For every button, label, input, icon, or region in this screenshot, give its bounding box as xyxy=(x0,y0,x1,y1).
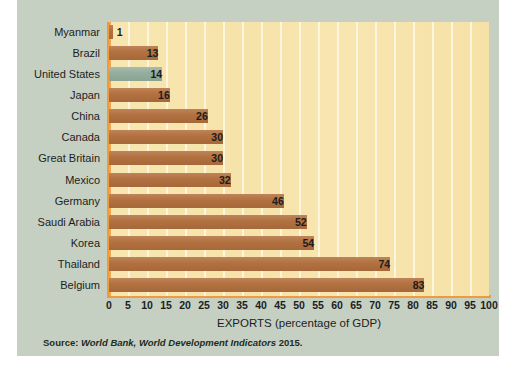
category-label-korea: Korea xyxy=(21,233,107,254)
bar-value-label: 30 xyxy=(109,151,227,165)
bar-value-label: 54 xyxy=(109,236,318,250)
x-tick-5: 5 xyxy=(125,299,131,311)
plot-area: 1131416263030324652547483 xyxy=(109,22,489,296)
bar-value-label: 1 xyxy=(113,25,123,39)
x-tick-20: 20 xyxy=(179,299,191,311)
bar-value-label: 16 xyxy=(109,88,174,102)
x-tick-10: 10 xyxy=(141,299,153,311)
bar-value-label: 32 xyxy=(109,173,235,187)
bar-value-label: 30 xyxy=(109,130,227,144)
category-label-belgium: Belgium xyxy=(21,275,107,296)
bar-value-label: 13 xyxy=(109,46,162,60)
source-year: 2015. xyxy=(279,337,303,348)
category-axis-labels: MyanmarBrazilUnited StatesJapanChinaCana… xyxy=(17,22,107,296)
x-tick-15: 15 xyxy=(160,299,172,311)
bar-row: 26 xyxy=(109,106,489,127)
bar-row: 32 xyxy=(109,170,489,191)
bar-row: 13 xyxy=(109,43,489,64)
category-label-japan: Japan xyxy=(21,85,107,106)
category-label-brazil: Brazil xyxy=(21,43,107,64)
category-label-great-britain: Great Britain xyxy=(21,148,107,169)
bar-row: 16 xyxy=(109,85,489,106)
bar-value-label: 46 xyxy=(109,194,288,208)
x-tick-75: 75 xyxy=(388,299,400,311)
bar-value-label: 83 xyxy=(109,278,428,292)
bar-row: 30 xyxy=(109,148,489,169)
source-note: Source: World Bank, World Development In… xyxy=(43,337,302,348)
x-tick-80: 80 xyxy=(407,299,419,311)
category-label-canada: Canada xyxy=(21,127,107,148)
category-label-china: China xyxy=(21,106,107,127)
figure-panel: 1131416263030324652547483 MyanmarBrazilU… xyxy=(17,0,499,356)
x-axis-title: EXPORTS (percentage of GDP) xyxy=(109,317,489,329)
bar-row: 1 xyxy=(109,22,489,43)
x-tick-35: 35 xyxy=(236,299,248,311)
x-tick-50: 50 xyxy=(293,299,305,311)
x-tick-70: 70 xyxy=(369,299,381,311)
x-tick-100: 100 xyxy=(480,299,498,311)
x-tick-55: 55 xyxy=(312,299,324,311)
x-tick-0: 0 xyxy=(106,299,112,311)
bar-value-label: 26 xyxy=(109,109,212,123)
x-tick-30: 30 xyxy=(217,299,229,311)
x-tick-65: 65 xyxy=(350,299,362,311)
bar-row: 74 xyxy=(109,254,489,275)
category-label-thailand: Thailand xyxy=(21,254,107,275)
source-publication: World Development Indicators xyxy=(139,337,276,348)
bar-row: 14 xyxy=(109,64,489,85)
source-publisher: World Bank, xyxy=(81,337,136,348)
bar-row: 52 xyxy=(109,212,489,233)
bar-value-label: 14 xyxy=(109,67,166,81)
category-label-germany: Germany xyxy=(21,191,107,212)
bar-row: 30 xyxy=(109,127,489,148)
bar-row: 46 xyxy=(109,191,489,212)
x-tick-40: 40 xyxy=(255,299,267,311)
bar-row: 54 xyxy=(109,233,489,254)
x-tick-25: 25 xyxy=(198,299,210,311)
x-tick-85: 85 xyxy=(426,299,438,311)
x-axis-tick-labels: 0510152025303540455055606570758085909510… xyxy=(109,299,489,315)
bar-value-label: 74 xyxy=(109,257,394,271)
bar-row: 83 xyxy=(109,275,489,296)
category-label-united-states: United States xyxy=(21,64,107,85)
category-label-myanmar: Myanmar xyxy=(21,22,107,43)
x-tick-90: 90 xyxy=(445,299,457,311)
bar-value-label: 52 xyxy=(109,215,311,229)
x-tick-95: 95 xyxy=(464,299,476,311)
x-tick-60: 60 xyxy=(331,299,343,311)
page-bottom-strip xyxy=(0,356,507,370)
source-prefix: Source: xyxy=(43,337,78,348)
category-label-mexico: Mexico xyxy=(21,170,107,191)
x-tick-45: 45 xyxy=(274,299,286,311)
category-label-saudi-arabia: Saudi Arabia xyxy=(21,212,107,233)
